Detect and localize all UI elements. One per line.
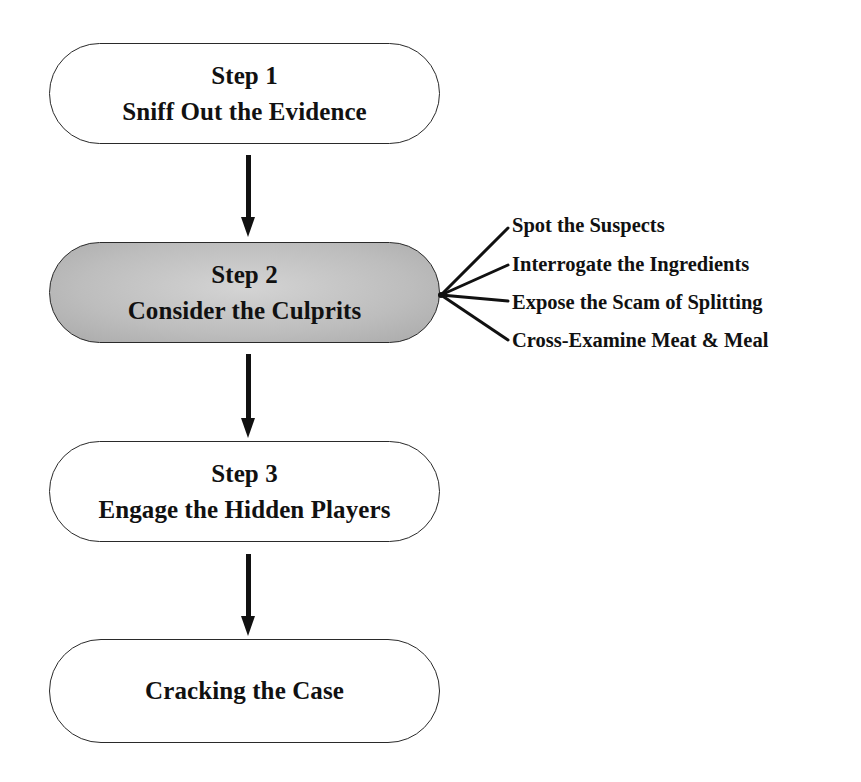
subitem-interrogate-ingredients: Interrogate the Ingredients [512,252,749,276]
step-3-label: Step 3 [211,456,278,492]
subitem-cross-examine: Cross-Examine Meat & Meal [512,328,768,352]
subitem-expose-splitting: Expose the Scam of Splitting [512,290,763,314]
arrow-down-icon [241,616,255,636]
arrow-down-icon [241,418,255,438]
subitem-spot-suspects: Spot the Suspects [512,213,665,237]
arrow-step2-to-step3 [241,354,255,438]
final-node: Cracking the Case [49,639,440,743]
step-3-title: Engage the Hidden Players [98,492,390,528]
arrow-step3-to-final [241,554,255,636]
step-3-node: Step 3 Engage the Hidden Players [49,441,440,542]
final-title: Cracking the Case [145,673,344,709]
